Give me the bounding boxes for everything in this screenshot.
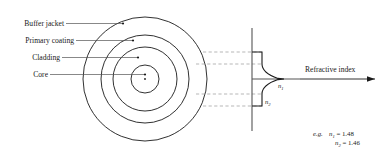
label-primary-coating: Primary coating [25,36,74,45]
label-core: Core [33,70,48,79]
leader-lines [50,22,146,75]
leader-dot-primary-coating [132,39,134,41]
center-dot [144,78,146,80]
region-labels: Buffer jacket Primary coating Cladding C… [24,19,74,79]
marker-n2: n2 [265,98,271,107]
refractive-index-axis: Refractive index [300,65,375,82]
fiber-cross-section-diagram: Buffer jacket Primary coating Cladding C… [0,0,387,158]
label-buffer-jacket: Buffer jacket [24,19,65,28]
profile-marker-labels: n1 n2 [265,82,284,107]
label-refractive-index: Refractive index [305,65,356,74]
marker-n1-subscript: 1 [281,86,283,91]
example-n1-value: = 1.48 [335,130,355,137]
leader-dot-cladding [137,56,139,58]
example-n2-line: n2 = 1.46 [335,139,360,148]
marker-n1: n1 [278,82,284,91]
example-prefix: e.g. [313,130,323,137]
example-n1-line: n1 = 1.48 [329,130,354,139]
example-n2-value: = 1.46 [341,139,361,146]
marker-n2-subscript: 2 [268,102,271,107]
fiber-rings [83,17,207,141]
example-values-note: e.g. n1 = 1.48 n2 = 1.46 [313,130,360,148]
figure-canvas: Buffer jacket Primary coating Cladding C… [0,0,387,158]
arrow-head-icon [367,76,375,82]
profile-axes [252,28,300,131]
leader-dot-buffer-jacket [122,22,124,24]
label-cladding: Cladding [32,53,60,62]
leader-dot-core [144,73,146,75]
